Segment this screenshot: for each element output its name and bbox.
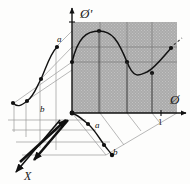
diagram-svg: Ø' Ø X 1 a b a b xyxy=(0,0,190,184)
phi-phi-prime-panel xyxy=(72,22,177,113)
x-axis-label: X xyxy=(23,169,32,183)
label-a-bottom: a xyxy=(95,120,100,130)
label-b-left: b xyxy=(40,104,45,114)
origin-point xyxy=(70,111,75,116)
figure-container: Ø' Ø X 1 a b a b xyxy=(0,0,190,184)
phi-prime-axis-label: Ø' xyxy=(79,6,92,21)
phi-axis-label: Ø xyxy=(169,92,180,107)
label-b-bottom: b xyxy=(113,147,118,157)
label-a-left: a xyxy=(57,34,62,44)
tick-one-label: 1 xyxy=(158,117,163,127)
